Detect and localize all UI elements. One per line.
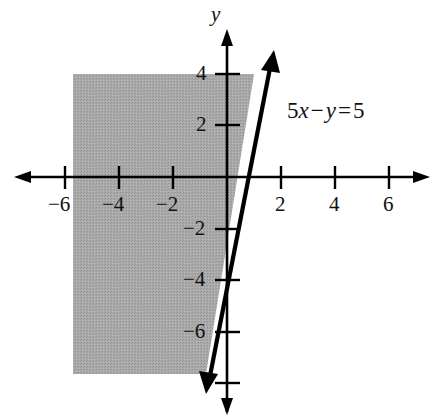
x-tick-label-6: 6 bbox=[383, 194, 394, 215]
x-axis-right-arrow bbox=[413, 171, 430, 183]
x-tick-label-4: 4 bbox=[329, 194, 340, 215]
y-axis-bottom-arrow bbox=[221, 398, 233, 415]
line-upper-arrow bbox=[261, 50, 280, 73]
y-tick-label-4: 4 bbox=[196, 63, 207, 84]
equation-var-y: y bbox=[326, 98, 336, 123]
y-axis-label: y bbox=[211, 4, 220, 25]
x-tick-label-neg4: −4 bbox=[102, 194, 124, 215]
equation-equals-sign: = bbox=[336, 98, 353, 123]
y-tick-label-2: 2 bbox=[196, 114, 207, 135]
equation-minus-sign: − bbox=[309, 98, 326, 123]
y-tick-label-neg6: −6 bbox=[183, 321, 205, 342]
x-tick-label-2: 2 bbox=[275, 194, 286, 215]
equation-rhs: 5 bbox=[353, 98, 365, 123]
x-tick-label-neg2: −2 bbox=[156, 194, 178, 215]
y-axis-top-arrow bbox=[221, 29, 233, 46]
equation-var-x: x bbox=[299, 98, 309, 123]
line-equation-annotation: 5x−y=5 bbox=[287, 99, 364, 122]
figure-canvas: y −6 −4 −2 2 4 6 4 2 −2 −4 −6 5x−y=5 bbox=[0, 0, 441, 415]
equation-coefficient: 5 bbox=[287, 98, 299, 123]
x-tick-label-neg6: −6 bbox=[48, 194, 70, 215]
x-axis-left-arrow bbox=[14, 171, 31, 183]
y-tick-label-neg4: −4 bbox=[183, 269, 205, 290]
y-tick-label-neg2: −2 bbox=[183, 218, 205, 239]
